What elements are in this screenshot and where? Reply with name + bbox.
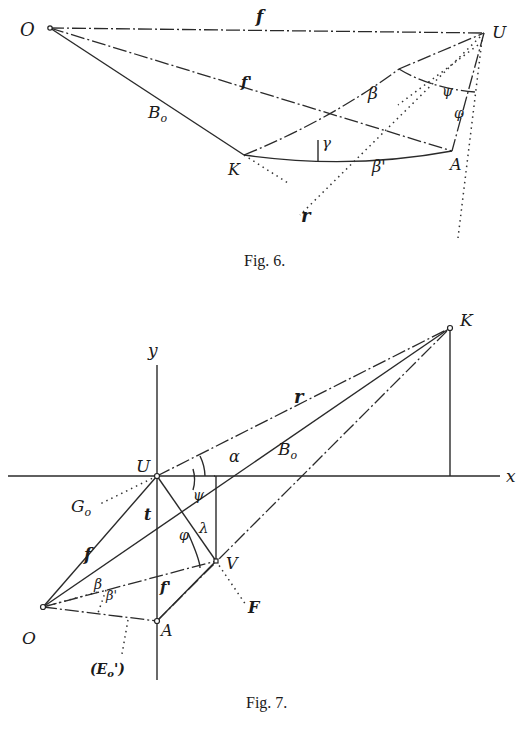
label-x: x (506, 466, 516, 486)
label-O: O (22, 628, 36, 648)
line-r (157, 328, 450, 476)
arc-phi (188, 533, 200, 568)
point-O (41, 605, 46, 610)
line-E0 (122, 620, 128, 654)
caption-fig7: Fig. 7. (246, 694, 287, 712)
point-O (48, 26, 52, 30)
label-f: f (83, 544, 94, 564)
label-E0: (Eo') (90, 661, 125, 679)
label-beta: β (367, 83, 378, 103)
label-beta-prime: β' (105, 588, 117, 603)
label-alpha: α (229, 447, 240, 466)
label-gamma: γ (322, 134, 331, 152)
label-beta-prime: β' (371, 157, 386, 176)
label-f-prime: f' (240, 73, 252, 91)
line-B0 (50, 28, 244, 155)
label-r: r (294, 386, 305, 407)
line-dotted-vertical (458, 40, 482, 238)
line-U-A (452, 33, 484, 151)
point-V (214, 559, 218, 563)
arc-beta-prime (244, 151, 452, 162)
label-psi: ψ (442, 83, 454, 99)
line-O-A (43, 607, 157, 621)
point-U (155, 474, 160, 479)
label-B0: Bo (277, 439, 298, 462)
label-phi: φ (179, 527, 189, 543)
label-t: t (144, 505, 152, 524)
label-psi: ψ (193, 487, 205, 503)
label-U: U (492, 22, 507, 42)
label-A: A (448, 155, 462, 174)
label-r: r (301, 205, 312, 226)
point-A (155, 619, 160, 624)
label-K: K (227, 160, 241, 179)
label-A: A (159, 621, 173, 640)
line-r (300, 33, 484, 215)
figure-7: y x (8, 310, 516, 712)
caption-fig6: Fig. 6. (244, 252, 285, 270)
figure-6: O U f f' Bo K A β β' γ ψ φ r Fig. 6. (20, 6, 507, 270)
line-f (50, 28, 484, 33)
label-F: F (247, 598, 261, 617)
label-lambda: λ (198, 519, 209, 537)
line-G0 (100, 476, 157, 504)
label-B0: Bo (147, 102, 168, 125)
label-phi: φ (454, 105, 464, 121)
label-K: K (459, 310, 474, 330)
label-y: y (147, 340, 158, 360)
label-f: f (255, 6, 266, 26)
line-B0 (43, 328, 450, 607)
label-G0: Go (71, 496, 92, 519)
label-beta: β (93, 576, 102, 592)
line-f-prime (43, 561, 216, 607)
label-f-prime: f' (159, 578, 171, 596)
segment-beta (98, 590, 106, 613)
label-U: U (136, 456, 151, 476)
diagram-canvas: O U f f' Bo K A β β' γ ψ φ r Fig. 6. y x (0, 0, 524, 739)
label-V: V (226, 554, 239, 573)
label-O: O (20, 19, 35, 40)
arc-alpha (200, 456, 205, 476)
point-K (448, 326, 453, 331)
